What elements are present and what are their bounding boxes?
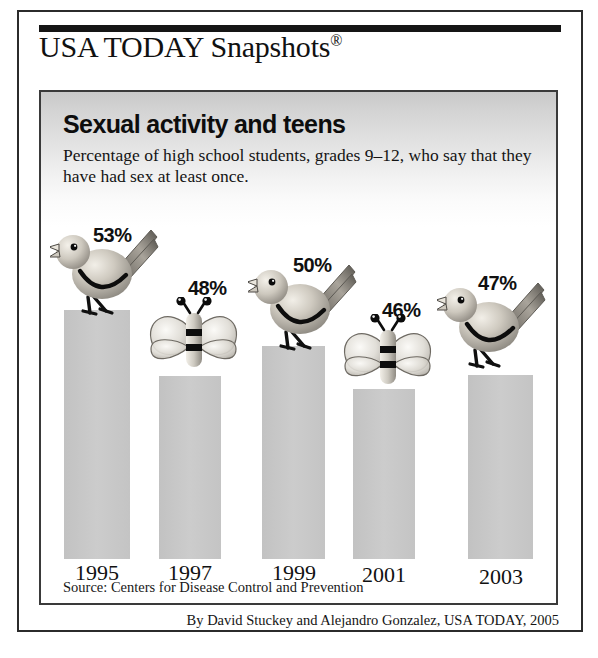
bar-1999	[262, 346, 325, 559]
bird-icon-2003	[437, 276, 547, 376]
masthead: USA TODAY Snapshots®	[39, 25, 561, 87]
masthead-title: USA TODAY Snapshots®	[39, 30, 342, 64]
snapshot-panel: Sexual activity and teens Percentage of …	[39, 90, 558, 605]
bird-icon-1995	[50, 227, 160, 319]
source-note: Source: Centers for Disease Control and …	[63, 579, 363, 596]
bar-1995	[64, 310, 130, 559]
bar-chart: 53%	[41, 92, 558, 605]
butterfly-icon-1997	[145, 297, 241, 379]
butterfly-icon-2001	[339, 314, 435, 396]
bar-2001	[353, 389, 415, 559]
masthead-title-text: USA TODAY Snapshots	[39, 30, 330, 63]
axis-label-2003: 2003	[464, 564, 538, 590]
bar-1997	[159, 376, 221, 559]
byline: By David Stuckey and Alejandro Gonzalez,…	[19, 612, 581, 629]
bar-2003	[468, 375, 533, 559]
registered-trademark-icon: ®	[330, 32, 342, 49]
outer-frame: USA TODAY Snapshots® Sexual activity and…	[17, 10, 583, 632]
